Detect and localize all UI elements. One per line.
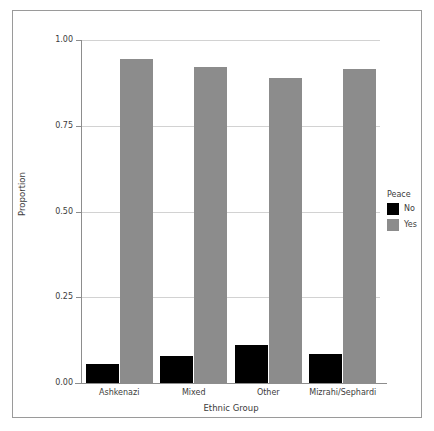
y-tick-label-wrap: 0.75 <box>33 122 73 130</box>
y-tick-label-wrap: 0.00 <box>33 379 73 387</box>
y-tick-mark <box>76 383 82 384</box>
y-tick-label: 0.50 <box>37 208 73 216</box>
bar <box>309 354 342 383</box>
bar <box>160 356 193 383</box>
legend-items: NoYes <box>387 203 434 231</box>
legend: Peace NoYes <box>387 191 434 235</box>
y-tick-label-wrap: 0.50 <box>33 208 73 216</box>
y-tick-label: 0.75 <box>37 122 73 130</box>
x-tick-label: Mizrahi/Sephardi <box>293 388 393 397</box>
legend-swatch <box>387 203 399 215</box>
legend-item[interactable]: Yes <box>387 219 434 231</box>
bar <box>194 67 227 383</box>
legend-label: Yes <box>404 221 417 229</box>
legend-label: No <box>404 205 415 213</box>
bar <box>269 78 302 383</box>
y-axis-title: Proportion <box>17 154 27 234</box>
legend-item[interactable]: No <box>387 203 434 215</box>
y-tick-label-wrap: 1.00 <box>33 36 73 44</box>
legend-title: Peace <box>387 191 434 199</box>
bar <box>235 345 268 383</box>
y-tick-label-wrap: 0.25 <box>33 293 73 301</box>
plot-area <box>82 40 380 383</box>
chart-frame: 0.000.250.500.751.00 AshkenaziMixedOther… <box>12 10 422 418</box>
y-tick-label: 1.00 <box>37 36 73 44</box>
x-axis-title: Ethnic Group <box>82 403 380 413</box>
bar <box>86 364 119 383</box>
bar <box>343 69 376 383</box>
y-tick-label: 0.00 <box>37 379 73 387</box>
bar <box>120 59 153 383</box>
legend-swatch <box>387 219 399 231</box>
y-tick-label: 0.25 <box>37 293 73 301</box>
x-axis-line <box>75 383 387 384</box>
